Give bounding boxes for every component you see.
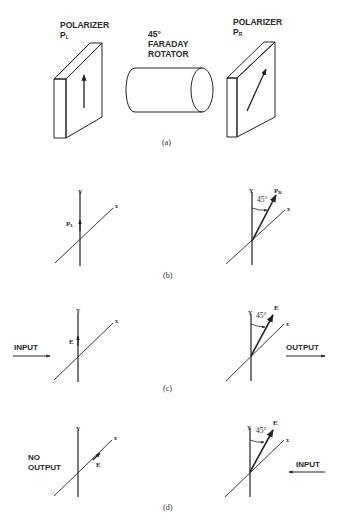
left-polarizer-slab — [54, 43, 102, 138]
input-label: INPUT — [14, 343, 38, 352]
no-output-label-line1: NO — [28, 453, 40, 462]
x-axis — [226, 210, 285, 264]
e-field-arrow-icon — [93, 453, 100, 460]
panel-b: Y x PL Y x 45° PR (b) — [55, 187, 290, 280]
angle-label: 45° — [256, 311, 267, 320]
rotator-label-line2: FARADAY — [148, 39, 189, 49]
rotator-label-line3: ROTATOR — [148, 49, 189, 59]
left-polarizer-symbol: PL — [60, 30, 69, 40]
caption-a: (a) — [162, 138, 171, 147]
panel-c-left-axes: Y x E INPUT — [13, 308, 118, 382]
pl-vector-label: PL — [66, 220, 74, 228]
e-field-label: E — [96, 461, 101, 469]
e-field-label: E — [69, 338, 74, 346]
x-axis — [54, 323, 113, 380]
x-axis-label: x — [287, 206, 290, 212]
x-axis-label: x — [115, 203, 118, 209]
e-field-label: E — [273, 419, 278, 427]
y-axis-label: Y — [76, 426, 81, 432]
panel-d-left-axes: Y x E NO OUTPUT — [28, 426, 117, 497]
panel-c: Y x E INPUT Y x 45° E OUTPUT (c) — [13, 304, 325, 393]
rotator-angle-label: 45° — [148, 29, 161, 39]
x-axis — [55, 208, 113, 263]
y-axis-label: Y — [76, 308, 81, 314]
left-polarizer-title: POLARIZER — [60, 20, 109, 30]
y-axis-label: Y — [249, 188, 254, 194]
x-axis — [54, 440, 112, 496]
y-axis-label: Y — [247, 425, 252, 431]
x-axis-label: x — [114, 435, 117, 441]
no-output-label-line2: OUTPUT — [28, 463, 61, 472]
panel-b-left-axes: Y x PL — [55, 189, 118, 266]
right-polarizer: POLARIZER PR — [227, 17, 282, 137]
caption-b: (b) — [163, 271, 173, 280]
angle-label: 45° — [257, 195, 268, 204]
left-polarizer: POLARIZER PL — [54, 20, 109, 138]
panel-d-right-axes: Y x 45° E INPUT — [225, 419, 325, 497]
x-axis — [226, 324, 284, 381]
pr-vector-label: PR — [274, 187, 282, 195]
rotation-angle-arc-icon — [252, 208, 267, 210]
faraday-rotator: 45° FARADAY ROTATOR — [126, 29, 213, 112]
panel-b-right-axes: Y x 45° PR — [226, 187, 290, 265]
right-polarizer-symbol: PR — [233, 27, 243, 37]
input-label: INPUT — [296, 460, 320, 469]
e-field-label: E — [274, 304, 279, 312]
e-field-arrow-icon — [251, 315, 273, 356]
e-field-arrow-icon — [250, 430, 273, 472]
rotator-cylinder — [126, 68, 213, 112]
panel-a: POLARIZER PL 45° FARADAY ROTATOR POLARIZ… — [54, 17, 282, 147]
rotation-angle-arc-icon — [250, 440, 264, 442]
x-axis — [225, 440, 284, 497]
right-polarizer-title: POLARIZER — [233, 17, 282, 27]
panel-c-right-axes: Y x 45° E OUTPUT — [226, 304, 325, 381]
right-polarizer-slab — [227, 42, 275, 137]
y-axis-label: Y — [248, 310, 253, 316]
faraday-isolator-diagram: POLARIZER PL 45° FARADAY ROTATOR POLARIZ… — [0, 0, 341, 526]
panel-d: Y x E NO OUTPUT Y x 45° E INPUT (d) — [28, 419, 325, 512]
y-axis-label: Y — [78, 189, 83, 195]
x-axis-label: x — [286, 437, 289, 443]
output-label: OUTPUT — [286, 343, 319, 352]
x-axis-label: x — [286, 321, 289, 327]
caption-c: (c) — [163, 384, 172, 393]
x-axis-label: x — [115, 318, 118, 324]
angle-label: 45° — [256, 426, 267, 435]
right-polarizer-axis-arrow-icon — [247, 69, 266, 111]
caption-d: (d) — [163, 503, 173, 512]
rotation-angle-arc-icon — [251, 324, 265, 327]
